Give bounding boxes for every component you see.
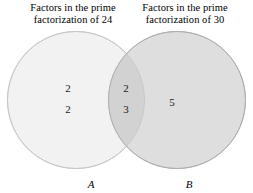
venn-diagram-canvas: Factors in the prime factorization of 24… — [0, 0, 253, 193]
set-a-label: A — [82, 178, 100, 190]
intersection-element: 2 — [118, 82, 134, 94]
set-a-element: 2 — [60, 103, 76, 115]
set-b-element: 5 — [164, 96, 180, 108]
intersection-element: 3 — [118, 103, 134, 115]
set-a-element: 2 — [60, 82, 76, 94]
venn-circles — [0, 0, 253, 193]
set-b-label: B — [180, 178, 198, 190]
